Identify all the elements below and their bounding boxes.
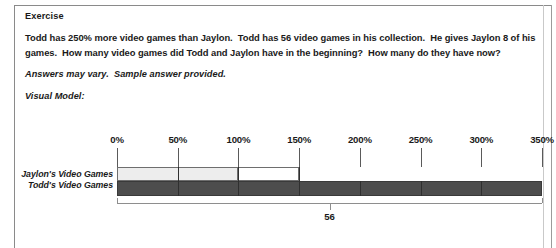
bar-division-300 [481, 181, 482, 196]
brace-stem [330, 203, 331, 210]
answer-note: Answers may vary. Sample answer provided… [25, 69, 226, 79]
bar-division-100 [238, 167, 239, 196]
brace-horizontal-line [117, 203, 542, 204]
page-edge-right [543, 5, 544, 248]
exercise-heading: Exercise [25, 11, 64, 21]
bar-label-jaylon: Jaylon's Video Games [21, 169, 113, 179]
bar-division-150 [299, 167, 300, 196]
page-border-top [14, 5, 552, 6]
axis-tick-label-300pct: 300% [469, 134, 493, 145]
bar-division-200 [360, 181, 361, 196]
axis-tick-label-0pct: 0% [110, 134, 123, 145]
axis-tick-mark-150 [299, 148, 300, 167]
axis-tick-label-200pct: 200% [348, 134, 372, 145]
axis-tick-label-250pct: 250% [409, 134, 433, 145]
axis-tick-mark-0 [117, 148, 118, 167]
axis-tick-mark-300 [481, 148, 482, 167]
bar-division-50 [178, 167, 179, 196]
axis-tick-label-100pct: 100% [227, 134, 251, 145]
axis-tick-mark-50 [178, 148, 179, 167]
bar-todd-filled-segment [117, 181, 542, 196]
worksheet-page: Exercise Todd has 250% more video games … [0, 0, 556, 248]
page-border-right [551, 5, 552, 248]
brace-total-label: 56 [324, 211, 335, 222]
page-border-left [14, 5, 15, 248]
axis-tick-mark-250 [421, 148, 422, 167]
bar-jaylon-filled-segment [117, 167, 238, 181]
bar-label-todd: Todd's Video Games [28, 180, 113, 190]
axis-tick-label-150pct: 150% [287, 134, 311, 145]
axis-tick-mark-100 [238, 148, 239, 167]
bar-division-250 [421, 181, 422, 196]
axis-tick-mark-200 [360, 148, 361, 167]
problem-statement: Todd has 250% more video games than Jayl… [25, 31, 537, 60]
brace-cap-left [117, 198, 118, 203]
bar-jaylon-outlined-segment [238, 167, 299, 181]
visual-model-heading: Visual Model: [25, 91, 85, 101]
axis-tick-label-50pct: 50% [168, 134, 187, 145]
